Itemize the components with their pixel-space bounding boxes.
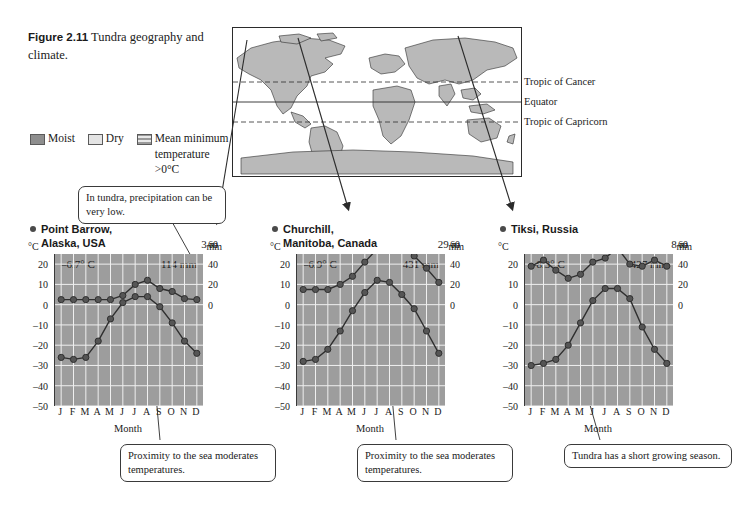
temp-tick-label: –40	[275, 380, 290, 391]
climate-chart-churchill: °Cmm–6.9° C431 mm20100–10–20–30–40–50604…	[272, 254, 460, 434]
month-tick-label: O	[168, 406, 175, 417]
month-tick-label: A	[613, 406, 620, 417]
climate-panel-churchill: Churchill,Manitoba, Canada 29 m °Cmm–6.9…	[272, 222, 460, 434]
temp-tick-label: 10	[508, 279, 518, 290]
callout-sea-left: Proximity to the sea moderates temperatu…	[120, 444, 276, 482]
precipitation-axis: 6040200	[448, 254, 472, 406]
temp-tick-label: –40	[503, 380, 518, 391]
precip-tick-label: 40	[450, 259, 460, 270]
callout-precipitation: In tundra, precipitation can be very low…	[78, 186, 226, 224]
month-tick-label: F	[70, 406, 76, 417]
month-axis: JFMAMJJASOND	[296, 406, 444, 422]
station-name-tiksi: Tiksi, Russia	[511, 222, 578, 236]
month-tick-label: J	[362, 406, 366, 417]
climate-panel-tiksi: Tiksi, Russia 8 m °Cmm–8.3° C427 mm20100…	[500, 222, 688, 434]
precipitation-axis: 6040200	[206, 254, 230, 406]
figure-caption: Figure 2.11 Tundra geography and climate…	[28, 28, 228, 64]
month-tick-label: D	[434, 406, 441, 417]
month-tick-label: A	[336, 406, 343, 417]
precip-tick-label: 0	[678, 299, 683, 310]
map-label-tropic-of-capricorn: Tropic of Capricorn	[524, 116, 608, 127]
temp-tick-label: –30	[503, 360, 518, 371]
month-tick-label: J	[300, 406, 304, 417]
legend: Moist Dry Mean minimum temperature >0°C	[30, 131, 245, 178]
mean-min-temp-swatch-icon	[137, 134, 152, 145]
precip-tick-label: 40	[678, 259, 688, 270]
temp-tick-label: 20	[280, 259, 290, 270]
month-tick-label: A	[143, 406, 150, 417]
temp-tick-label: 10	[38, 279, 48, 290]
temperature-axis: 20100–10–20–30–40–50	[272, 254, 294, 406]
month-tick-label: M	[550, 406, 559, 417]
month-tick-label: M	[322, 406, 331, 417]
month-tick-label: S	[626, 406, 632, 417]
temp-tick-label: –10	[33, 319, 48, 330]
month-tick-label: N	[650, 406, 657, 417]
temp-tick-label: 20	[508, 259, 518, 270]
plot-area: –6.9° C431 mm	[296, 254, 445, 406]
month-tick-label: O	[638, 406, 645, 417]
temp-tick-label: 20	[38, 259, 48, 270]
station-name-churchill: Churchill,Manitoba, Canada	[283, 222, 377, 251]
month-tick-label: S	[398, 406, 404, 417]
month-tick-label: J	[120, 406, 124, 417]
precip-tick-label: 40	[208, 259, 218, 270]
month-axis: JFMAMJJASOND	[524, 406, 672, 422]
figure-number: Figure 2.11	[28, 31, 88, 43]
station-dot-icon	[500, 226, 506, 232]
month-tick-label: M	[347, 406, 356, 417]
month-tick-label: J	[528, 406, 532, 417]
callout-growing-season: Tundra has a short growing season.	[564, 444, 732, 468]
month-tick-label: J	[590, 406, 594, 417]
month-tick-label: J	[374, 406, 378, 417]
month-tick-label: F	[312, 406, 318, 417]
temp-tick-label: –50	[33, 401, 48, 412]
temperature-axis: 20100–10–20–30–40–50	[500, 254, 522, 406]
legend-label-mean-min-temp: Mean minimum temperature >0°C	[155, 131, 236, 178]
month-axis-label: Month	[524, 423, 672, 434]
legend-label-moist: Moist	[48, 131, 75, 147]
month-tick-label: A	[94, 406, 101, 417]
precip-tick-label: 0	[450, 299, 455, 310]
world-map	[232, 27, 522, 177]
month-axis-label: Month	[296, 423, 444, 434]
month-tick-label: J	[602, 406, 606, 417]
temp-tick-label: –50	[503, 401, 518, 412]
month-tick-label: N	[180, 406, 187, 417]
legend-label-dry: Dry	[106, 131, 124, 147]
climate-chart-tiksi: °Cmm–8.3° C427 mm20100–10–20–30–40–50604…	[500, 254, 688, 434]
precipitation-axis: 6040200	[676, 254, 700, 406]
temp-tick-label: –50	[275, 401, 290, 412]
month-tick-label: A	[385, 406, 392, 417]
temp-tick-label: 0	[513, 299, 518, 310]
dry-swatch-icon	[88, 134, 103, 145]
moist-swatch-icon	[30, 134, 45, 145]
month-tick-label: A	[564, 406, 571, 417]
precip-tick-label: 60	[678, 238, 688, 249]
temp-tick-label: –10	[275, 319, 290, 330]
precip-tick-label: 60	[208, 238, 218, 249]
climate-panel-point-barrow: Point Barrow,Alaska, USA 3 m °Cmm–6.7° C…	[30, 222, 218, 434]
map-label-equator: Equator	[524, 96, 557, 107]
temp-tick-label: –30	[275, 360, 290, 371]
temp-tick-label: –20	[33, 340, 48, 351]
precip-tick-label: 60	[450, 238, 460, 249]
temp-axis-unit: °C	[270, 241, 281, 252]
precip-tick-label: 20	[208, 279, 218, 290]
map-latitude-labels: Tropic of Cancer Equator Tropic of Capri…	[524, 27, 674, 175]
temp-tick-label: –20	[275, 340, 290, 351]
month-tick-label: J	[58, 406, 62, 417]
precip-tick-label: 20	[678, 279, 688, 290]
plot-area: –6.7° C114 mm	[54, 254, 203, 406]
month-tick-label: O	[410, 406, 417, 417]
legend-item-mean-min-temp: Mean minimum temperature >0°C	[137, 131, 236, 178]
precip-tick-label: 20	[450, 279, 460, 290]
temperature-axis: 20100–10–20–30–40–50	[30, 254, 52, 406]
month-tick-label: D	[192, 406, 199, 417]
climate-chart-point-barrow: °Cmm–6.7° C114 mm20100–10–20–30–40–50604…	[30, 254, 218, 434]
legend-item-moist: Moist	[30, 131, 75, 147]
temp-axis-unit: °C	[28, 241, 39, 252]
month-tick-label: N	[422, 406, 429, 417]
station-dot-icon	[30, 226, 36, 232]
plot-area: –8.3° C427 mm	[524, 254, 673, 406]
